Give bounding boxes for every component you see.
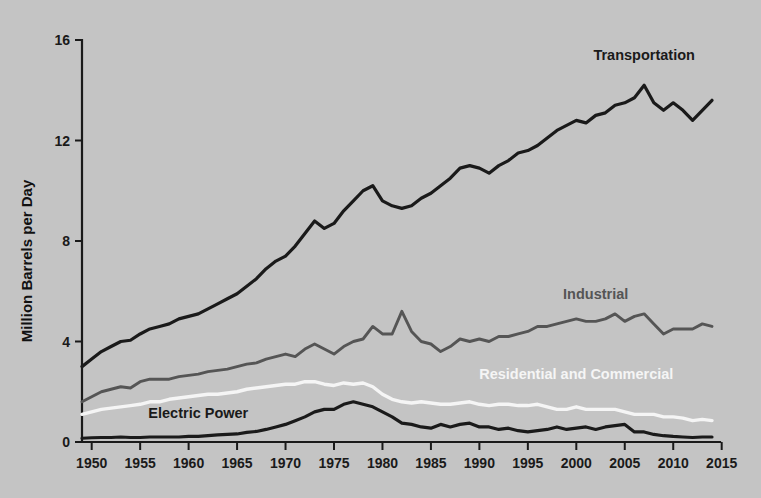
y-tick-label: 4 (62, 334, 70, 350)
y-axis-title: Million Barrels per Day (18, 179, 35, 342)
x-tick-label: 1950 (76, 455, 107, 471)
x-tick-label: 1980 (367, 455, 398, 471)
x-tick-label: 1955 (125, 455, 156, 471)
y-tick-label: 8 (62, 233, 70, 249)
series-label-electric-power: Electric Power (148, 405, 248, 421)
x-tick-label: 1990 (464, 455, 495, 471)
x-tick-label: 1965 (221, 455, 252, 471)
chart-container: 0481216 19501955196019651970197519801985… (0, 0, 761, 498)
x-tick-label: 1985 (415, 455, 446, 471)
y-tick-label: 16 (54, 32, 70, 48)
x-tick-label: 2000 (561, 455, 592, 471)
series-line-industrial (82, 311, 712, 401)
data-series-group (82, 85, 712, 438)
series-label-industrial: Industrial (563, 286, 628, 302)
x-axis-tick-labels: 1950195519601965197019751980198519901995… (76, 455, 737, 471)
x-tick-label: 2005 (609, 455, 640, 471)
line-chart-plot: 0481216 19501955196019651970197519801985… (0, 0, 761, 498)
series-label-transportation: Transportation (593, 47, 695, 63)
x-tick-label: 1975 (318, 455, 349, 471)
x-tick-label: 1995 (512, 455, 543, 471)
y-tick-label: 12 (54, 133, 70, 149)
x-tick-label: 1970 (270, 455, 301, 471)
x-tick-label: 2010 (658, 455, 689, 471)
series-label-residential-and-commercial: Residential and Commercial (479, 366, 673, 382)
series-label-group: TransportationIndustrialResidential and … (148, 47, 695, 421)
y-axis-tick-labels: 0481216 (54, 32, 70, 450)
x-tick-label: 1960 (173, 455, 204, 471)
y-tick-label: 0 (62, 434, 70, 450)
x-tick-label: 2015 (706, 455, 737, 471)
